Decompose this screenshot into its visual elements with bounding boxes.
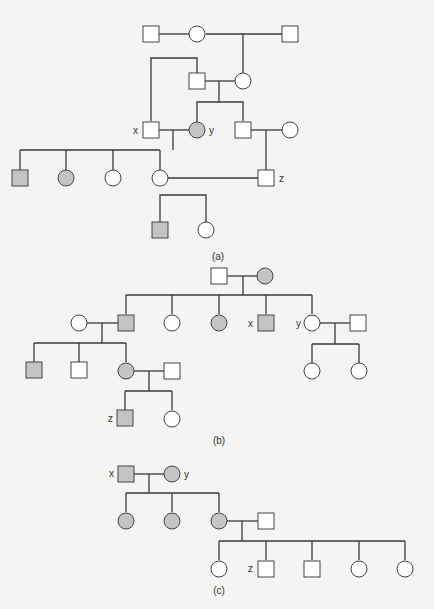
c-gen3-female-2 [351, 561, 367, 577]
b-gen3-male [71, 362, 87, 378]
b-gen3-spouse-male [164, 363, 180, 379]
b-gen3-female-2 [351, 363, 367, 379]
b-y-female [304, 315, 320, 331]
label-z: z [108, 413, 113, 424]
a-gen2-male [189, 73, 205, 89]
c-gen2-female-affected-3 [211, 513, 227, 529]
b-gen2-male-affected [118, 315, 134, 331]
a-gen4-female-2 [152, 170, 168, 186]
label-x: x [109, 468, 114, 479]
label-z: z [248, 563, 253, 574]
caption-a: (a) [212, 251, 224, 262]
a-gen4-female [105, 170, 121, 186]
b-x-male-affected [258, 315, 274, 331]
a-gen1-male-2 [282, 26, 298, 42]
b-gen4-female [164, 411, 180, 427]
pedigree-figure: x y z (a) [0, 0, 434, 609]
a-x-male [143, 122, 159, 138]
caption-b: (b) [213, 435, 225, 446]
c-gen2-female-affected-2 [164, 513, 180, 529]
caption-c: (c) [213, 585, 225, 596]
b-gen2-female [164, 315, 180, 331]
b-gen2-female-affected [211, 315, 227, 331]
pedigree-b: x y z (b) [26, 268, 367, 446]
a-gen3-male [235, 122, 251, 138]
label-x: x [133, 125, 138, 136]
b-gen3-female-affected [118, 363, 134, 379]
pedigree-c: x y z (c) [109, 466, 413, 596]
a-gen4-female-affected [58, 170, 74, 186]
label-x: x [248, 318, 253, 329]
b-gen2-spouse-male [350, 315, 366, 331]
c-gen3-male [304, 561, 320, 577]
a-gen1-male [143, 26, 159, 42]
c-y-female-affected [164, 466, 180, 482]
label-y: y [184, 469, 189, 480]
a-gen3-female [282, 122, 298, 138]
b-gen3-male-affected [26, 362, 42, 378]
a-gen4-male-affected [12, 170, 28, 186]
a-gen5-male-affected [152, 222, 168, 238]
b-gen2-spouse-female [71, 315, 87, 331]
c-gen2-spouse-male [258, 513, 274, 529]
a-gen5-female [198, 222, 214, 238]
b-z-male-affected [117, 410, 133, 426]
label-y: y [296, 318, 301, 329]
a-gen2-female [235, 73, 251, 89]
a-gen1-female [189, 26, 205, 42]
c-z-male [258, 561, 274, 577]
c-gen2-female-affected [118, 513, 134, 529]
c-x-male-affected [118, 466, 134, 482]
label-y: y [209, 125, 214, 136]
b-gen1-male [211, 268, 227, 284]
c-gen3-female [211, 561, 227, 577]
c-gen3-female-3 [397, 561, 413, 577]
a-y-female-affected [189, 122, 205, 138]
pedigree-a: x y z (a) [12, 26, 298, 262]
a-z-male [258, 170, 274, 186]
b-gen3-female [304, 363, 320, 379]
label-z: z [279, 173, 284, 184]
b-gen1-female-affected [257, 268, 273, 284]
